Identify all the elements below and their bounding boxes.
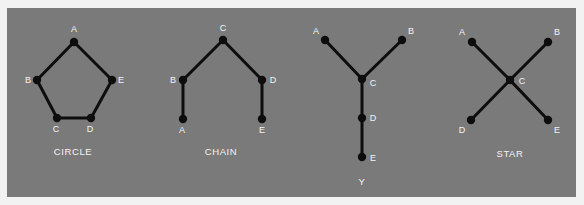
node-label-a: A [71,24,77,34]
node-a [179,115,187,123]
node-label-d: D [370,113,377,123]
node-label-a: A [459,27,465,37]
edge-a-c [325,40,362,79]
caption-circle: CIRCLE [54,146,92,157]
node-d [258,76,266,84]
caption-star: STAR [496,148,523,159]
node-label-b: B [554,27,560,37]
edge-b-c [362,40,402,79]
caption-y: Y [359,176,366,187]
node-a [321,36,329,44]
node-label-a: A [313,26,319,36]
node-c [53,114,61,122]
node-c [358,75,366,83]
node-c [506,76,514,84]
node-label-e: E [554,125,560,135]
node-label-e: E [118,75,124,85]
node-label-c: C [370,78,377,88]
node-b [179,76,187,84]
node-label-c: C [220,23,227,33]
edge-a-b [37,42,74,80]
node-label-b: B [408,26,414,36]
edge-b-c [510,42,548,80]
node-a [70,38,78,46]
edge-e-a [74,42,112,80]
network-diagram: ABECDCIRCLECBDAECHAINABCDEYABCDESTAR [0,0,584,205]
edge-c-d [471,80,510,120]
edge-c-d [223,40,262,80]
edge-a-c [472,42,510,80]
node-label-b: B [170,75,176,85]
node-e [544,116,552,124]
node-label-d: D [459,125,466,135]
network-circle: ABECDCIRCLE [25,24,124,157]
node-e [108,76,116,84]
edge-b-c [183,40,223,80]
node-a [468,38,476,46]
node-label-e: E [370,153,376,163]
edge-d-e [91,80,112,118]
node-b [544,38,552,46]
node-label-c: C [519,76,526,86]
node-b [398,36,406,44]
node-b [33,76,41,84]
node-e [358,153,366,161]
network-y: ABCDEY [313,26,414,187]
edge-c-e [510,80,548,120]
network-star: ABCDESTAR [459,27,560,159]
node-label-d: D [270,75,277,85]
node-d [467,116,475,124]
network-chain: CBDAECHAIN [170,23,277,157]
node-d [358,114,366,122]
edge-b-c [37,80,57,118]
node-label-d: D [87,124,94,134]
node-d [87,114,95,122]
node-label-e: E [259,125,265,135]
node-label-c: C [53,124,60,134]
node-c [219,36,227,44]
node-label-b: B [25,75,31,85]
node-e [258,115,266,123]
node-label-a: A [179,125,185,135]
caption-chain: CHAIN [205,146,238,157]
